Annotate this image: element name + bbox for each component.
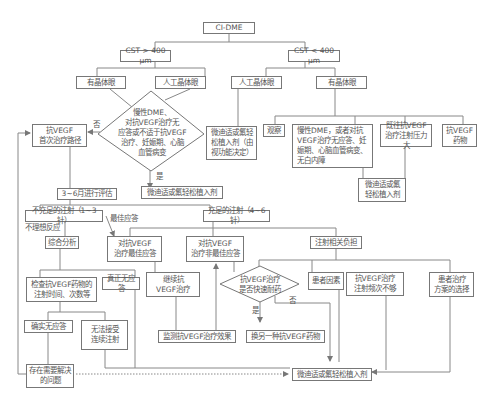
monitor-node: 监测抗VEGF治疗效果 [158,330,236,343]
comprehensive-node: 综合分析 [45,236,79,249]
decision-main-text: 慢性DME、 对抗VEGF治疗无 应答或不适于抗VEGF 治疗、妊娠期、心脑 血… [108,108,196,158]
implant-right-node: 微迪适或氟 轻松植入剂 [358,178,406,202]
anti-vegf-first-node: 抗VEGF 首次治疗路径 [32,124,87,147]
cst-low-node: CST < 400 μm [288,50,340,62]
best-resp-node: 对抗VEGF 治疗最佳应答 [107,236,162,262]
chronic-dme-right-node: 慢性DME，或者对抗 VEGF治疗无应答、妊 娠期、心脑血管病变、 无白内障 [292,124,373,168]
nonbest-resp-node: 对抗VEGF 治疗非最佳应答 [186,236,244,262]
sufficient-node: 充足的注射（4~6针） [203,210,270,222]
cannot-accept-node: 无法接受 连续注射 [81,320,128,350]
patient-choice-node: 患者治疗 方案的选择 [429,272,474,297]
confirmed-nonresp-node: 确实无应答 [24,320,73,333]
pseudophakic-right-node: 人工晶体眼 [231,76,282,89]
injection-burden-node: 注射相关负担 [310,236,362,249]
decision-fast-yes-label: 是 [252,306,259,315]
implant-after-decision-node: 微迪适或氟轻松植入剂 [141,186,223,199]
resistant-node: 抗VEGF 药物 [442,124,477,147]
continue-vegf-node: 继续抗 VEGF治疗 [146,272,200,297]
cst-high-node: CST > 400 μm [120,50,171,62]
insufficient-node: 不充足的注射（1~3针） [25,210,103,222]
freq-insufficient-node: 抗VEGF治疗 注射频次不够 [346,272,404,296]
decision-main-yes-label: 是 [156,172,163,181]
evaluate-node: 3~6月进行评估 [57,188,117,200]
best-response-label: 最佳应答 [110,214,138,223]
burden-node: 既往抗VEGF 治疗注射压力大 [380,124,432,147]
implant-pseudophakic-node: 微迪适或氟轻 松植入剂（由 视功能决定） [206,126,257,160]
decision-main-no-label: 否 [93,120,100,129]
decision-fast-no-label: 否 [289,296,296,305]
phakic-left-node: 有晶体眼 [76,76,126,89]
root-node: CI-DME [203,22,255,34]
observe-node: 观察 [263,124,285,137]
true-nonresp-node: 真正无应答 [102,277,140,290]
check-drug-node: 检查抗VEGF药物的 注射时间、次数等 [26,277,97,302]
decision-fast-text: 抗VEGF治疗 是否快速耐药 [226,275,294,295]
switch-drug-node: 换另一种抗VEGF药物 [246,330,325,343]
phakic-right-node: 有晶体眼 [316,76,367,89]
final-implant-node: 微迪适或氟轻松植入剂 [292,368,372,381]
pseudophakic-left-node: 人工晶体眼 [155,76,206,89]
not-ideal-label: 不理想反应 [25,223,60,232]
problem-node: 存在需要解决 的问题 [26,364,74,388]
patient-factor-node: 患者因素 [308,272,344,290]
